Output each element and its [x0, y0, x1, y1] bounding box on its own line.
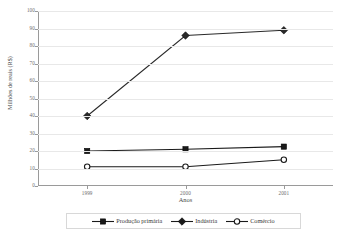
gridline	[38, 29, 333, 30]
gridline	[38, 99, 333, 100]
legend-label: Indústria	[195, 217, 217, 225]
y-axis-tick-label: 20	[5, 148, 35, 153]
chart-title	[0, 0, 344, 6]
chart-container: 0102030405060708090100 199920002001 Milh…	[0, 0, 344, 231]
gridline	[38, 11, 333, 12]
gridline	[38, 116, 333, 117]
y-axis-tick	[35, 46, 38, 47]
gridline	[38, 151, 333, 152]
y-axis-tick	[35, 134, 38, 135]
chart-legend: Produção primáriaIndústriaComércio	[66, 213, 301, 229]
y-axis-tick	[35, 29, 38, 30]
gridline	[38, 169, 333, 170]
y-axis-title: Milhões de reais (R$)	[6, 26, 14, 141]
legend-marker-filled-diamond-icon	[171, 217, 193, 226]
gridline	[38, 134, 333, 135]
legend-marker-open-circle-icon	[226, 217, 248, 226]
y-axis-tick-label: 100	[5, 8, 35, 13]
y-axis-tick	[35, 169, 38, 170]
legend-label: Produção primária	[116, 217, 162, 225]
y-axis-tick	[35, 11, 38, 12]
legend-item[interactable]: Indústria	[171, 217, 217, 226]
legend-label: Comércio	[250, 217, 274, 225]
y-axis-tick	[35, 81, 38, 82]
y-axis-tick-label: 0	[5, 183, 35, 188]
gridline	[38, 64, 333, 65]
legend-marker-filled-square-icon	[92, 217, 114, 226]
data-point-open-circle	[235, 218, 240, 223]
gridline	[38, 81, 333, 82]
data-point-filled-square	[101, 218, 106, 223]
gridline	[38, 46, 333, 47]
y-axis-tick	[35, 116, 38, 117]
data-point-filled-diamond	[178, 217, 185, 224]
y-axis-tick	[35, 99, 38, 100]
plot-area	[38, 11, 333, 186]
y-axis-tick	[35, 186, 38, 187]
legend-item[interactable]: Comércio	[226, 217, 274, 226]
y-axis-tick	[35, 64, 38, 65]
legend-item[interactable]: Produção primária	[92, 217, 162, 226]
y-axis-tick	[35, 151, 38, 152]
x-axis-title: Anos	[38, 196, 333, 204]
y-axis-tick-label: 10	[5, 166, 35, 171]
